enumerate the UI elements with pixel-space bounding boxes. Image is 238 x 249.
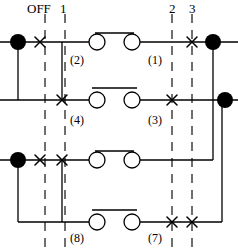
contact-label-1: (1) xyxy=(148,54,162,66)
column-label-position-1: 1 xyxy=(60,2,67,15)
circuit-row-3 xyxy=(0,151,213,168)
column-label-position-2: 2 xyxy=(169,2,176,15)
contact-label-8: (8) xyxy=(70,232,84,244)
contact-circle-row3-a xyxy=(89,152,105,168)
contact-circle-row3-b xyxy=(124,152,140,168)
contact-circle-row2-b xyxy=(124,92,140,108)
contact-label-4: (4) xyxy=(70,114,84,126)
contact-circle-row4-b xyxy=(124,214,140,230)
contact-circle-row2-a xyxy=(89,92,105,108)
terminal-node-row1-right xyxy=(205,34,221,50)
contact-circle-row1-a xyxy=(89,34,105,50)
ladder-diagram-svg xyxy=(0,0,238,249)
column-label-position-3: 3 xyxy=(189,2,196,15)
contact-circle-row4-a xyxy=(89,214,105,230)
terminal-node-row3-left xyxy=(10,152,26,168)
terminal-node-row2-right xyxy=(217,92,233,108)
diagram-canvas: OFF 1 2 3 (2) (1) (4) (3) (8) (7) xyxy=(0,0,238,249)
contact-label-7: (7) xyxy=(148,232,162,244)
terminal-node-row1-left xyxy=(10,34,26,50)
circuit-row-2 xyxy=(0,88,238,108)
contact-circle-row1-b xyxy=(124,34,140,50)
terminal-nodes-group xyxy=(10,34,233,168)
circuit-row-1 xyxy=(0,33,238,50)
contact-label-2: (2) xyxy=(70,54,84,66)
contact-label-3: (3) xyxy=(148,114,162,126)
guide-lines-group xyxy=(45,14,192,249)
column-label-off: OFF xyxy=(27,2,51,15)
